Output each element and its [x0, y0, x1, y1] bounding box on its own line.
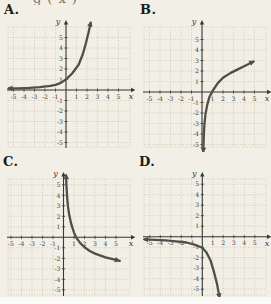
svg-text:4: 4 [242, 95, 246, 102]
svg-text:-4: -4 [157, 95, 163, 102]
svg-text:4: 4 [195, 191, 199, 198]
svg-text:y: y [191, 169, 197, 178]
svg-text:5: 5 [114, 240, 118, 247]
svg-text:-3: -3 [57, 118, 63, 125]
svg-text:-5: -5 [146, 95, 152, 102]
svg-text:3: 3 [232, 239, 236, 246]
svg-text:-5: -5 [8, 240, 14, 247]
svg-text:4: 4 [104, 240, 108, 247]
svg-text:-5: -5 [193, 141, 199, 148]
svg-text:-5: -5 [193, 285, 199, 292]
svg-text:-1: -1 [54, 244, 60, 251]
svg-text:-5: -5 [10, 93, 16, 100]
svg-text:3: 3 [232, 95, 236, 102]
svg-text:-3: -3 [29, 240, 35, 247]
svg-text:1: 1 [57, 223, 61, 230]
svg-text:-3: -3 [193, 120, 199, 127]
svg-text:x: x [129, 92, 134, 101]
svg-text:5: 5 [117, 93, 121, 100]
svg-text:3: 3 [96, 93, 100, 100]
svg-text:-3: -3 [54, 265, 60, 272]
svg-text:5: 5 [57, 181, 61, 188]
page-margin [0, 297, 271, 304]
svg-text:y: y [55, 17, 61, 26]
textbook-answer-choices-page: g(x) A. B. C. D. -5-4-3-2-11234554321-1-… [0, 0, 271, 304]
svg-text:-5: -5 [54, 286, 60, 293]
svg-text:-2: -2 [42, 93, 48, 100]
svg-text:5: 5 [253, 95, 257, 102]
graph-option-d: -5-4-3-2-11234554321-1-2-3-4-5xy [136, 152, 271, 304]
svg-text:-4: -4 [54, 276, 60, 283]
svg-text:2: 2 [59, 65, 63, 72]
svg-text:-4: -4 [21, 93, 27, 100]
svg-text:5: 5 [195, 180, 199, 187]
svg-text:1: 1 [211, 239, 215, 246]
svg-text:3: 3 [195, 201, 199, 208]
svg-text:-1: -1 [193, 99, 199, 106]
svg-text:4: 4 [57, 192, 61, 199]
svg-text:2: 2 [221, 95, 225, 102]
svg-text:x: x [265, 239, 270, 248]
svg-text:4: 4 [59, 44, 63, 51]
svg-text:2: 2 [195, 212, 199, 219]
svg-text:1: 1 [75, 93, 79, 100]
svg-text:-3: -3 [167, 95, 173, 102]
graph-option-b: -5-4-3-2-11234554321-1-2-3-4-5xy [136, 0, 271, 152]
svg-text:y: y [191, 17, 197, 26]
svg-text:-2: -2 [193, 254, 199, 261]
svg-text:5: 5 [195, 36, 199, 43]
svg-text:2: 2 [221, 239, 225, 246]
svg-text:1: 1 [195, 78, 199, 85]
graph-option-a: -5-4-3-2-11234554321-1-2-3-4-5xy [0, 0, 135, 152]
svg-text:-4: -4 [193, 130, 199, 137]
graph-option-c: -5-4-3-2-11234554321-1-2-3-4-5xy [0, 152, 135, 304]
svg-text:5: 5 [59, 34, 63, 41]
svg-text:2: 2 [57, 213, 61, 220]
svg-text:-2: -2 [193, 109, 199, 116]
svg-text:x: x [265, 94, 270, 103]
svg-text:-4: -4 [18, 240, 24, 247]
svg-text:x: x [129, 239, 134, 248]
svg-text:2: 2 [195, 67, 199, 74]
svg-text:4: 4 [242, 239, 246, 246]
svg-text:5: 5 [253, 239, 257, 246]
svg-text:-5: -5 [57, 139, 63, 146]
svg-text:1: 1 [195, 222, 199, 229]
svg-text:3: 3 [59, 55, 63, 62]
svg-text:-2: -2 [178, 95, 184, 102]
svg-text:3: 3 [93, 240, 97, 247]
svg-text:-2: -2 [57, 107, 63, 114]
svg-text:4: 4 [106, 93, 110, 100]
svg-text:3: 3 [57, 202, 61, 209]
svg-text:-2: -2 [39, 240, 45, 247]
svg-text:2: 2 [85, 93, 89, 100]
svg-text:4: 4 [195, 46, 199, 53]
svg-text:-4: -4 [193, 275, 199, 282]
svg-text:-2: -2 [54, 255, 60, 262]
svg-text:y: y [52, 169, 58, 178]
svg-text:-4: -4 [57, 128, 63, 135]
svg-text:-3: -3 [193, 264, 199, 271]
svg-text:-3: -3 [31, 93, 37, 100]
svg-text:-1: -1 [57, 97, 63, 104]
svg-text:3: 3 [195, 57, 199, 64]
svg-text:1: 1 [72, 240, 76, 247]
